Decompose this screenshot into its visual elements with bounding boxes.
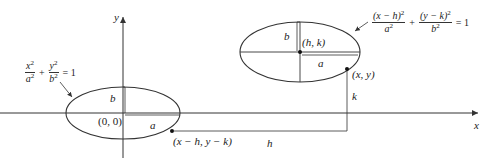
left-b-label: b bbox=[110, 93, 116, 104]
exp: 2 bbox=[54, 59, 58, 67]
exp: 2 bbox=[30, 59, 34, 67]
right-center-label: (h, k) bbox=[302, 37, 325, 48]
right-b-label: b bbox=[284, 31, 290, 42]
left-point bbox=[170, 129, 174, 133]
h-label: h bbox=[267, 138, 273, 149]
exp: 2 bbox=[389, 22, 393, 30]
exp: 2 bbox=[436, 22, 440, 30]
y-axis-label: y bbox=[114, 12, 119, 23]
right-equation-pointer bbox=[355, 22, 368, 31]
exp: 2 bbox=[54, 72, 58, 80]
right-point bbox=[345, 67, 349, 71]
right-ellipse-equation: (x − h)2a2 + (y − k)2b2 = 1 bbox=[372, 10, 469, 35]
right-center-point bbox=[298, 50, 302, 54]
eq-num: (x − h) bbox=[373, 10, 401, 21]
exp: 2 bbox=[447, 9, 451, 17]
right-a-label: a bbox=[318, 58, 324, 69]
left-point-label: (x − h, y − k) bbox=[173, 136, 232, 147]
left-center-label: (0, 0) bbox=[98, 116, 122, 127]
plus-sign: + bbox=[39, 67, 45, 78]
exp: 2 bbox=[31, 72, 35, 80]
plus-sign: + bbox=[409, 17, 415, 28]
equals-one: = 1 bbox=[63, 67, 76, 78]
k-label: k bbox=[352, 91, 357, 102]
equals-one: = 1 bbox=[456, 17, 469, 28]
left-ellipse-equation: x2a2 + y2b2 = 1 bbox=[25, 60, 76, 85]
x-axis-label: x bbox=[474, 120, 479, 131]
right-point-label: (x, y) bbox=[352, 69, 375, 80]
left-a-label: a bbox=[150, 120, 156, 131]
eq-num: (y − k) bbox=[420, 10, 447, 21]
exp: 2 bbox=[401, 9, 405, 17]
